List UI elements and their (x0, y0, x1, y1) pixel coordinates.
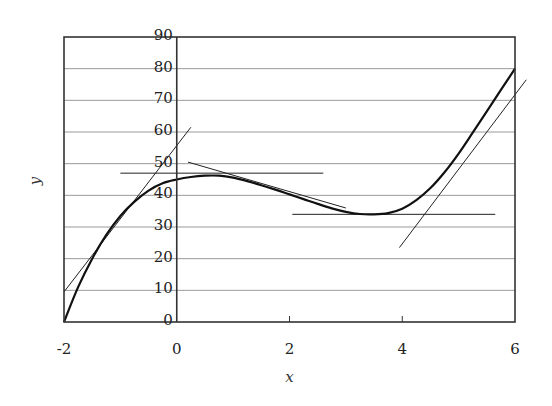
y-tick-label: 90 (154, 26, 173, 44)
y-tick-label: 0 (163, 311, 173, 329)
y-tick-label: 20 (154, 248, 173, 266)
y-tick-label: 70 (154, 89, 173, 107)
x-tick-label: 2 (285, 340, 295, 358)
y-tick-label: 60 (154, 121, 173, 139)
gridlines (64, 69, 515, 291)
x-tick-label: 4 (397, 340, 407, 358)
x-tick-label: -2 (57, 340, 72, 358)
y-tick-label: 30 (154, 216, 173, 234)
chart-canvas: -20246 0102030405060708090 x y (0, 0, 552, 406)
tangent-lines (64, 80, 526, 292)
y-tick-label: 40 (154, 184, 173, 202)
x-axis-title: x (285, 368, 294, 386)
plot-frame (64, 37, 515, 322)
y-axis-ticks: 0102030405060708090 (154, 26, 173, 329)
y-tick-label: 10 (154, 279, 173, 297)
y-tick-label: 50 (154, 153, 173, 171)
y-tick-label: 80 (154, 58, 173, 76)
y-axis-title: y (26, 176, 44, 186)
tangent-descending (188, 162, 346, 208)
x-tick-label: 0 (172, 340, 182, 358)
x-tick-label: 6 (510, 340, 520, 358)
